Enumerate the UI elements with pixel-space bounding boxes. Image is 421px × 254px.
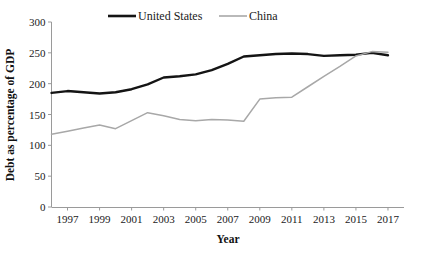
x-tick-label: 2005 [185, 213, 208, 225]
x-tick-label: 2001 [121, 213, 143, 225]
y-tick-label: 0 [40, 201, 46, 213]
y-axis-title: Debt as percentage of GDP [4, 49, 17, 182]
line-chart: United States China 050100150200250300 D… [0, 0, 421, 254]
x-tick-label: 2013 [313, 213, 336, 225]
x-tick-label: 1997 [57, 213, 80, 225]
legend-label-china: China [249, 9, 278, 23]
chart-canvas: United States China 050100150200250300 D… [0, 0, 421, 254]
series-line-united-states [52, 53, 388, 94]
x-axis: 1997199920012003200520072009201120132015… [52, 207, 405, 245]
y-axis: 050100150200250300 Debt as percentage of… [4, 16, 52, 213]
x-tick-label: 2015 [345, 213, 368, 225]
y-tick-label: 150 [29, 109, 46, 121]
y-tick-label: 250 [29, 47, 46, 59]
x-tick-label: 2003 [153, 213, 176, 225]
legend-label-united-states: United States [138, 9, 203, 23]
x-axis-ticks: 1997199920012003200520072009201120132015… [57, 207, 400, 225]
x-tick-label: 2007 [217, 213, 240, 225]
y-tick-label: 100 [29, 139, 46, 151]
x-tick-label: 2017 [377, 213, 400, 225]
x-tick-label: 2009 [249, 213, 272, 225]
y-tick-label: 300 [29, 16, 46, 28]
x-axis-title: Year [217, 233, 240, 245]
chart-legend: United States China [108, 9, 278, 23]
y-tick-label: 50 [35, 170, 47, 182]
x-tick-label: 1999 [89, 213, 112, 225]
x-tick-label: 2011 [281, 213, 303, 225]
y-tick-label: 200 [29, 78, 46, 90]
y-axis-ticks: 050100150200250300 [29, 16, 52, 213]
data-series-group [52, 52, 388, 135]
